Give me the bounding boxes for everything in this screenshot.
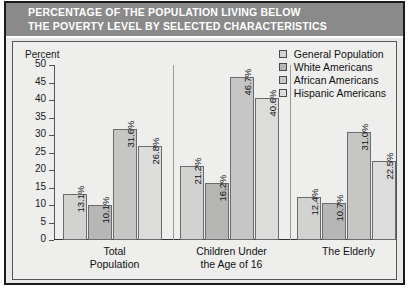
y-axis-tick: 0	[49, 240, 54, 241]
y-axis-line	[54, 65, 55, 240]
bar-group: 13.1%10.1%31.6%26.8%	[63, 65, 166, 240]
y-axis-tick-label: 25	[35, 146, 46, 157]
y-axis-tick: 40	[49, 100, 54, 101]
y-axis-tick: 35	[49, 118, 54, 119]
bar: 12.4%	[297, 197, 321, 240]
bar-value-label: 13.1%	[75, 186, 86, 213]
bar-value-label: 10.7%	[334, 194, 345, 221]
category-label-line-1: The Elderly	[285, 245, 409, 258]
group-separator	[290, 65, 291, 240]
bar-value-label: 22.5%	[384, 153, 395, 180]
y-axis-tick: 5	[49, 223, 54, 224]
bar: 13.1%	[63, 194, 87, 240]
category-label-line-2: the Age of 16	[168, 258, 295, 271]
bar-value-label: 46.7%	[242, 68, 253, 95]
y-axis-tick: 50	[49, 65, 54, 66]
bar-value-label: 40.6%	[267, 89, 278, 116]
chart-panel: Percent General PopulationWhite American…	[6, 36, 403, 283]
bar: 46.7%	[230, 77, 254, 240]
legend-item: General Population	[279, 47, 386, 60]
y-axis-tick: 15	[49, 188, 54, 189]
bar-value-label: 21.2%	[192, 157, 203, 184]
category-label-line-2: Population	[51, 258, 178, 271]
y-axis-tick-label: 35	[35, 111, 46, 122]
y-axis-tick-label: 5	[40, 216, 46, 227]
x-axis-category-label: TotalPopulation	[51, 245, 178, 270]
y-axis-tick-label: 45	[35, 76, 46, 87]
y-axis-tick-label: 40	[35, 93, 46, 104]
bar-value-label: 31.0%	[359, 123, 370, 150]
y-axis-tick: 25	[49, 153, 54, 154]
page-title-line-1: PERCENTAGE OF THE POPULATION LIVING BELO…	[28, 6, 403, 20]
bar: 10.7%	[322, 203, 346, 240]
bar-value-label: 16.2%	[217, 175, 228, 202]
bar-group: 12.4%10.7%31.0%22.5%	[297, 65, 400, 240]
y-axis-tick-label: 10	[35, 198, 46, 209]
y-axis-tick-label: 50	[35, 58, 46, 69]
y-axis-tick: 20	[49, 170, 54, 171]
page-title-line-2: THE POVERTY LEVEL BY SELECTED CHARACTERI…	[28, 20, 403, 34]
y-axis-tick-label: 0	[40, 233, 46, 244]
category-label-line-1: Children Under	[168, 245, 295, 258]
bar: 31.0%	[347, 132, 371, 241]
bar: 21.2%	[180, 166, 204, 240]
y-axis-tick-label: 20	[35, 163, 46, 174]
bar-value-label: 10.1%	[100, 196, 111, 223]
y-axis-tick-label: 15	[35, 181, 46, 192]
bar-group: 21.2%16.2%46.7%40.6%	[180, 65, 283, 240]
legend-swatch-icon	[279, 50, 287, 58]
y-axis-tick: 45	[49, 83, 54, 84]
chart-title-banner: PERCENTAGE OF THE POPULATION LIVING BELO…	[6, 3, 403, 36]
y-axis-tick: 10	[49, 205, 54, 206]
plot-area: Percent General PopulationWhite American…	[12, 41, 397, 280]
bar-value-label: 26.8%	[150, 138, 161, 165]
bar: 26.8%	[138, 146, 162, 240]
bar-value-label: 12.4%	[309, 188, 320, 215]
bar: 40.6%	[255, 98, 279, 240]
chart-figure: PERCENTAGE OF THE POPULATION LIVING BELO…	[0, 0, 409, 288]
group-separator	[173, 65, 174, 240]
legend-item-label: General Population	[294, 48, 384, 60]
bar-value-label: 31.6%	[125, 121, 136, 148]
category-label-line-1: Total	[51, 245, 178, 258]
x-axis-category-labels: TotalPopulationChildren Underthe Age of …	[54, 245, 385, 277]
y-axis-tick: 30	[49, 135, 54, 136]
x-axis-category-label: Children Underthe Age of 16	[168, 245, 295, 270]
bar: 16.2%	[205, 183, 229, 240]
bar: 10.1%	[88, 205, 112, 240]
axes: 5045403530252015105013.1%10.1%31.6%26.8%…	[54, 65, 385, 240]
x-axis-category-label: The Elderly	[285, 245, 409, 258]
bar: 31.6%	[113, 129, 137, 240]
y-axis-tick-label: 30	[35, 128, 46, 139]
bar: 22.5%	[372, 161, 396, 240]
